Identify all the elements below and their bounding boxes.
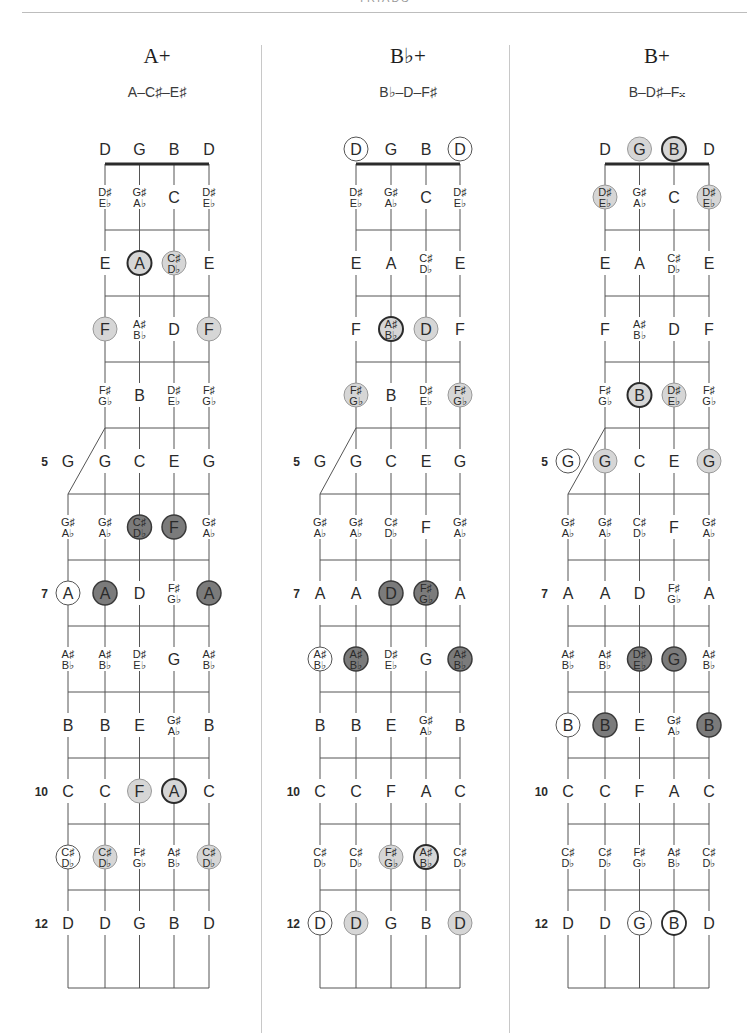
note-label: C [703,783,715,800]
fret-number-7: 7 [541,587,548,601]
note-label: E [669,453,680,470]
note-label-flat: E♭ [668,395,680,407]
note-label-flat: D♭ [562,857,575,869]
note-label-flat: B♭ [668,857,680,869]
note-label: F [669,519,679,536]
note-label: C [562,783,574,800]
note-label: A [563,585,574,602]
fret-number-5: 5 [541,455,548,469]
note-label: B [669,141,680,158]
note-label-flat: B♭ [633,329,645,341]
note-label-flat: G♭ [702,395,716,407]
note-label: G [633,915,645,932]
note-label-flat: D♭ [668,263,681,275]
note-label: F [704,321,714,338]
note-label-flat: E♭ [599,197,611,209]
note-label-flat: D♭ [703,857,716,869]
note-label-flat: E♭ [703,197,715,209]
note-label-flat: A♭ [562,527,574,539]
note-label: C [668,189,680,206]
note-label: C [634,453,646,470]
note-label: A [634,255,645,272]
note-label: G [599,453,611,470]
note-label: F [635,783,645,800]
note-label-flat: A♭ [633,197,645,209]
note-label: E [634,717,645,734]
note-label-flat: G♭ [667,593,681,605]
note-label: B [669,915,680,932]
note-label: B [600,717,611,734]
note-label: G [703,453,715,470]
note-label: D [703,141,715,158]
note-label: G [633,141,645,158]
note-label: D [668,321,680,338]
note-label: D [562,915,574,932]
note-label: B [634,387,645,404]
note-label: B [704,717,715,734]
note-label-flat: B♭ [562,659,574,671]
note-label: F [600,321,610,338]
fret-number-10: 10 [535,785,549,799]
note-label: A [704,585,715,602]
note-label-flat: A♭ [703,527,715,539]
note-label: E [600,255,611,272]
fret-number-12: 12 [535,917,549,931]
note-label-flat: A♭ [599,527,611,539]
note-label-flat: G♭ [598,395,612,407]
note-label: C [599,783,611,800]
fretboard-b-aug: DGBDD♯E♭G♯A♭CD♯E♭EAC♯D♭EFA♯B♭DFF♯G♭BD♯E♭… [0,0,747,1033]
note-label: G [668,651,680,668]
note-label: D [703,915,715,932]
note-label: G [562,453,574,470]
note-label: D [599,915,611,932]
note-label-flat: E♭ [633,659,645,671]
note-label: A [600,585,611,602]
note-label-flat: D♭ [633,527,646,539]
note-label-flat: G♭ [633,857,647,869]
note-label: B [563,717,574,734]
note-label-flat: A♭ [668,725,680,737]
note-label: E [704,255,715,272]
note-label: D [599,141,611,158]
note-label-flat: D♭ [599,857,612,869]
note-label: A [669,783,680,800]
note-label-flat: B♭ [599,659,611,671]
note-label: D [634,585,646,602]
note-label-flat: B♭ [703,659,715,671]
